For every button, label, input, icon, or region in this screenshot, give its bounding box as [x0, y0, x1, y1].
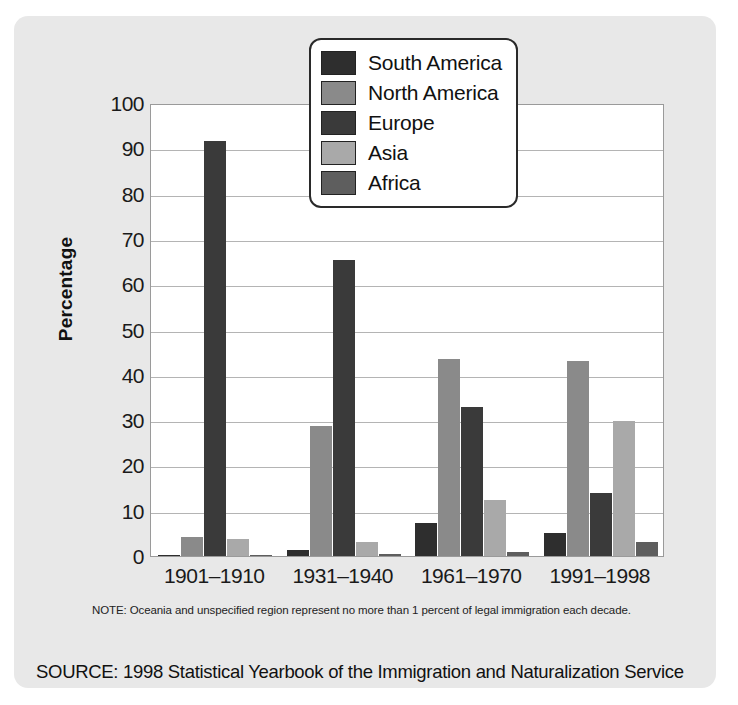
y-axis-tick-labels: 0102030405060708090100 — [88, 104, 144, 557]
y-axis-tick-label: 30 — [100, 409, 144, 433]
bar — [484, 500, 506, 556]
legend-item: South America — [321, 48, 502, 78]
legend-color-swatch — [321, 81, 356, 105]
bar — [461, 407, 483, 556]
bar — [544, 533, 566, 556]
chart-figure-panel: Percentage 0102030405060708090100 1901–1… — [14, 16, 716, 688]
chart-source: SOURCE: 1998 Statistical Yearbook of the… — [36, 661, 708, 683]
legend-item-label: South America — [368, 51, 502, 75]
y-axis-tick-label: 100 — [100, 92, 144, 116]
y-axis-tick-label: 20 — [100, 454, 144, 478]
chart-legend: South AmericaNorth AmericaEuropeAsiaAfri… — [309, 38, 518, 208]
bar — [333, 260, 355, 556]
bar — [287, 550, 309, 556]
plot-wrapper: Percentage 0102030405060708090100 1901–1… — [14, 16, 716, 688]
bar — [227, 539, 249, 556]
bar — [507, 552, 529, 556]
bar-group — [537, 105, 666, 556]
legend-item-label: Africa — [368, 171, 420, 195]
y-axis-tick-label: 60 — [100, 273, 144, 297]
bar — [379, 554, 401, 556]
legend-item-label: Asia — [368, 141, 408, 165]
legend-item: North America — [321, 78, 502, 108]
y-axis-title: Percentage — [55, 209, 77, 369]
legend-color-swatch — [321, 51, 356, 75]
legend-item-label: Europe — [368, 111, 435, 135]
legend-color-swatch — [321, 171, 356, 195]
bar-group — [151, 105, 280, 556]
bar — [415, 523, 437, 556]
legend-item: Asia — [321, 138, 502, 168]
bar — [250, 555, 272, 556]
y-axis-tick-label: 80 — [100, 183, 144, 207]
legend-item: Africa — [321, 168, 502, 198]
bar — [590, 493, 612, 556]
legend-color-swatch — [321, 141, 356, 165]
bar — [567, 361, 589, 556]
legend-color-swatch — [321, 111, 356, 135]
y-axis-tick-label: 40 — [100, 364, 144, 388]
y-axis-tick-label: 70 — [100, 228, 144, 252]
chart-note: NOTE: Oceania and unspecified region rep… — [92, 604, 652, 616]
y-axis-tick-label: 90 — [100, 137, 144, 161]
bar — [204, 141, 226, 556]
x-axis-tick-label: 1991–1998 — [520, 564, 680, 588]
bar — [356, 542, 378, 556]
y-axis-tick-label: 10 — [100, 500, 144, 524]
bar — [613, 421, 635, 556]
bar — [181, 537, 203, 556]
bar — [310, 426, 332, 556]
bar — [636, 542, 658, 556]
legend-item: Europe — [321, 108, 502, 138]
y-axis-tick-label: 50 — [100, 319, 144, 343]
legend-item-label: North America — [368, 81, 498, 105]
bar — [158, 555, 180, 556]
bar — [438, 359, 460, 556]
